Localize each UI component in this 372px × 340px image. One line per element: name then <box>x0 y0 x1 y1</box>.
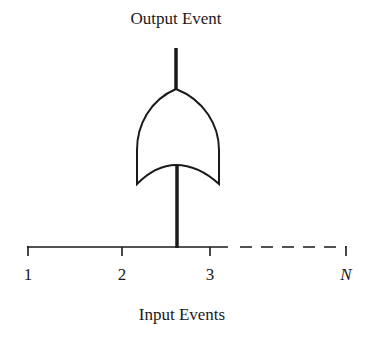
or-gate-diagram: Output Event 1 2 3 N Input Events <box>0 0 372 340</box>
input-label-1: 1 <box>24 265 33 284</box>
input-label-n: N <box>339 265 353 284</box>
diagram-canvas: Output Event 1 2 3 N Input Events <box>0 0 372 340</box>
output-event-label: Output Event <box>130 9 221 28</box>
input-events-label: Input Events <box>139 305 225 324</box>
input-label-2: 2 <box>118 265 127 284</box>
input-label-3: 3 <box>206 265 215 284</box>
